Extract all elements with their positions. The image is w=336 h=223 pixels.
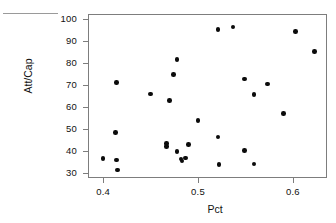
y-tick-label: 80: [55, 57, 77, 68]
y-tick-mark: [83, 129, 88, 130]
y-tick-mark: [83, 173, 88, 174]
y-tick-label: 30: [55, 167, 77, 178]
y-tick-label: 70: [55, 79, 77, 90]
x-tick-mark: [103, 178, 104, 183]
y-tick-mark: [83, 107, 88, 108]
plot-area-frame: [88, 14, 327, 178]
x-tick-label: 0.5: [185, 186, 211, 197]
y-tick-label: 100: [55, 13, 77, 24]
y-tick-mark: [83, 151, 88, 152]
y-tick-label: 50: [55, 123, 77, 134]
x-tick-mark: [198, 178, 199, 183]
page-rule-artifact: [3, 13, 58, 14]
x-tick-mark: [293, 178, 294, 183]
y-tick-label: 60: [55, 101, 77, 112]
x-axis-title: Pct: [155, 203, 275, 215]
scatter-plot-figure: 30405060708090100 0.40.50.6 Att/Cap Pct: [0, 0, 336, 223]
y-tick-mark: [83, 19, 88, 20]
y-tick-mark: [83, 41, 88, 42]
x-tick-label: 0.6: [280, 186, 306, 197]
y-tick-mark: [83, 63, 88, 64]
x-tick-label: 0.4: [90, 186, 116, 197]
y-tick-label: 90: [55, 35, 77, 46]
y-tick-mark: [83, 85, 88, 86]
y-tick-label: 40: [55, 145, 77, 156]
y-axis-title: Att/Cap: [22, 36, 34, 116]
